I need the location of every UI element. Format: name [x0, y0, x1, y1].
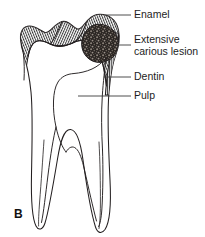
label-enamel: Enamel: [134, 8, 170, 20]
label-carious-lesion-line2: carious lesion: [134, 45, 198, 57]
tooth-diagram-svg: Enamel Extensive carious lesion Dentin P…: [0, 0, 205, 237]
extensive-carious-lesion: [82, 24, 119, 62]
labels-group: Enamel Extensive carious lesion Dentin P…: [134, 8, 198, 101]
panel-letter: B: [14, 207, 23, 221]
label-pulp: Pulp: [134, 89, 155, 101]
figure-root: Enamel Extensive carious lesion Dentin P…: [0, 0, 205, 237]
label-carious-lesion-line1: Extensive: [134, 33, 180, 45]
label-dentin: Dentin: [134, 70, 165, 82]
